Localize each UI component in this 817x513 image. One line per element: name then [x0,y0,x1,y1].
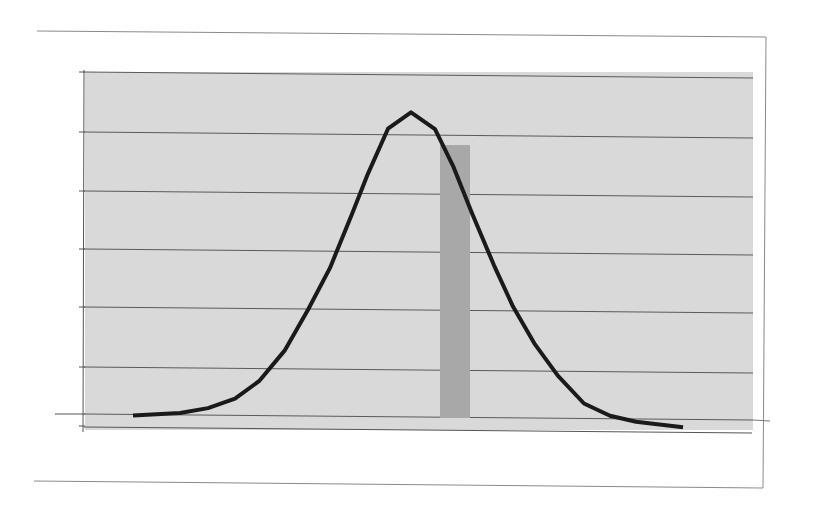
y-axis [55,70,85,432]
plot-area [85,72,753,430]
chart-figure [0,0,817,513]
highlight-bar [440,145,470,418]
baseline-extension [753,420,770,421]
